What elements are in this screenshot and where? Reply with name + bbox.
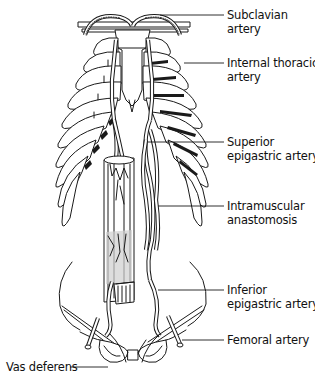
- label-line: Vas deferens: [6, 360, 78, 374]
- label-line: Femoral artery: [227, 333, 309, 347]
- label-line: Inferior: [227, 283, 315, 297]
- label-internal-thoracic-artery: Internal thoracic artery: [227, 56, 315, 84]
- label-line: anastomosis: [227, 213, 304, 227]
- label-line: epigastric artery: [227, 297, 315, 311]
- label-line: Subclavian: [227, 8, 288, 22]
- label-superior-epigastric-artery: Superior epigastric artery: [227, 135, 315, 163]
- label-inferior-epigastric-artery: Inferior epigastric artery: [227, 283, 315, 311]
- label-line: epigastric artery: [227, 149, 315, 163]
- label-vas-deferens: Vas deferens: [6, 360, 78, 374]
- label-line: artery: [227, 70, 315, 84]
- label-intramuscular-anastomosis: Intramuscular anastomosis: [227, 199, 304, 227]
- rectus-flap: [104, 156, 134, 336]
- label-subclavian-artery: Subclavian artery: [227, 8, 288, 36]
- label-line: Internal thoracic: [227, 56, 315, 70]
- label-line: artery: [227, 22, 288, 36]
- label-line: Intramuscular: [227, 199, 304, 213]
- label-line: Superior: [227, 135, 315, 149]
- label-femoral-artery: Femoral artery: [227, 333, 309, 347]
